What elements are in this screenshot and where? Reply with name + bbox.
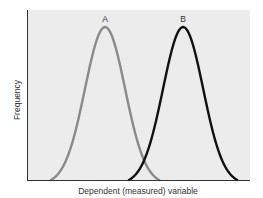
curve-a-label: A	[102, 14, 108, 24]
x-axis-title: Dependent (measured) variable	[78, 186, 198, 196]
distribution-chart: A B Dependent (measured) variable Freque…	[0, 0, 263, 198]
y-axis-title: Frequency	[12, 79, 22, 120]
plot-area	[27, 10, 250, 180]
curve-b-label: B	[180, 14, 186, 24]
